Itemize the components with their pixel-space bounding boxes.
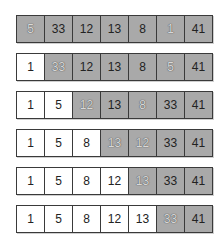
array-cell: 8 (73, 130, 101, 156)
array-cell: 13 (101, 16, 129, 42)
array-cell: 5 (45, 130, 73, 156)
array-cell: 41 (185, 16, 212, 42)
array-cell: 41 (185, 168, 212, 194)
array-cell: 33 (157, 92, 185, 118)
array-cell: 5 (45, 168, 73, 194)
array-cell: 5 (157, 54, 185, 80)
array-cell: 41 (185, 54, 212, 80)
array-cell: 12 (101, 206, 129, 232)
array-cell: 13 (129, 168, 157, 194)
array-cell: 13 (101, 92, 129, 118)
array-cell: 13 (101, 54, 129, 80)
array-cell: 8 (129, 16, 157, 42)
array-cell: 13 (101, 130, 129, 156)
array-cell: 12 (73, 92, 101, 118)
array-row-6: 15812133341 (16, 205, 213, 233)
array-row-1: 53312138141 (16, 15, 213, 43)
array-cell: 1 (157, 16, 185, 42)
array-cell: 1 (17, 92, 45, 118)
array-cell: 1 (17, 168, 45, 194)
array-cell: 8 (129, 54, 157, 80)
array-cell: 5 (17, 16, 45, 42)
array-cell: 12 (73, 54, 101, 80)
array-cell: 5 (45, 92, 73, 118)
array-cell: 1 (17, 206, 45, 232)
array-cell: 41 (185, 92, 212, 118)
array-cell: 8 (73, 206, 101, 232)
array-cell: 13 (129, 206, 157, 232)
array-row-5: 15812133341 (16, 167, 213, 195)
array-cell: 1 (17, 54, 45, 80)
array-cell: 33 (45, 54, 73, 80)
array-cell: 5 (45, 206, 73, 232)
array-cell: 1 (17, 130, 45, 156)
array-cell: 12 (73, 16, 101, 42)
array-cell: 8 (129, 92, 157, 118)
array-cell: 41 (185, 130, 212, 156)
array-cell: 8 (73, 168, 101, 194)
array-row-3: 15121383341 (16, 91, 213, 119)
array-cell: 33 (157, 130, 185, 156)
array-cell: 12 (129, 130, 157, 156)
array-cell: 33 (157, 168, 185, 194)
array-cell: 41 (185, 206, 212, 232)
array-cell: 33 (157, 206, 185, 232)
array-cell: 33 (45, 16, 73, 42)
array-row-4: 15813123341 (16, 129, 213, 157)
array-cell: 12 (101, 168, 129, 194)
array-row-2: 13312138541 (16, 53, 213, 81)
